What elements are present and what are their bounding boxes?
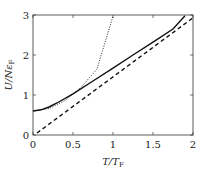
x-tick-label: 2 [190, 139, 196, 150]
y-axis-label: U/NεF [3, 59, 16, 90]
y-tick-label: 3 [23, 10, 29, 21]
series-dashed [37, 18, 193, 133]
plot-svg: 00.511.520123 T/TF U/NεF [0, 0, 206, 174]
series-dotted [33, 16, 113, 111]
chart: 00.511.520123 T/TF U/NεF [0, 0, 206, 174]
x-tick-label: 0.5 [65, 139, 81, 150]
y-tick-label: 2 [23, 50, 29, 61]
x-tick-label: 1.5 [145, 139, 161, 150]
series-lines [33, 16, 193, 133]
x-tick-label: 0 [30, 139, 36, 150]
x-tick-label: 1 [110, 139, 116, 150]
y-tick-label: 1 [23, 90, 29, 101]
plot-frame [33, 15, 193, 135]
y-tick-label: 0 [23, 130, 29, 141]
series-solid [33, 16, 185, 111]
x-axis-label: T/TF [102, 156, 124, 169]
